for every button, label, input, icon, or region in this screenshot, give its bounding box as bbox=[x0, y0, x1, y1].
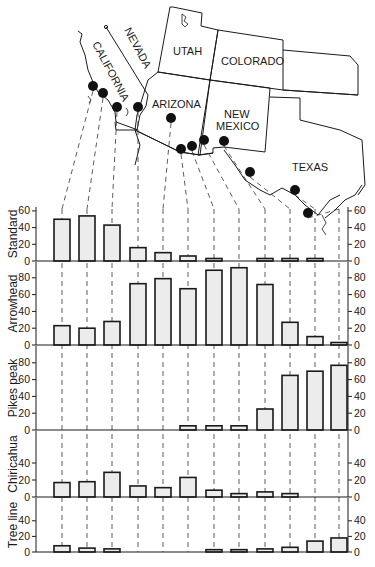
site-dot bbox=[98, 88, 108, 98]
bar bbox=[331, 365, 347, 430]
state-label-new-mexico-2: MEXICO bbox=[216, 120, 260, 132]
y-tick-label-right: 0 bbox=[354, 339, 360, 351]
site-dot bbox=[290, 185, 300, 195]
leader-line bbox=[204, 145, 239, 209]
state-label-arizona: ARIZONA bbox=[152, 98, 202, 110]
leader-line bbox=[62, 91, 93, 209]
bar bbox=[54, 483, 70, 497]
bar bbox=[180, 256, 196, 261]
bar bbox=[130, 248, 146, 261]
y-tick-label-right: 20 bbox=[354, 238, 366, 250]
panel-label: Pikes peak bbox=[6, 358, 20, 418]
y-tick-label-left: 0 bbox=[24, 339, 30, 351]
bar bbox=[282, 322, 298, 345]
leader-line bbox=[224, 146, 265, 209]
y-tick-label-left: 40 bbox=[18, 305, 30, 317]
leader-line bbox=[295, 195, 315, 209]
state-label-nevada: NEVADA bbox=[122, 25, 154, 70]
panel-label: Standard bbox=[6, 210, 20, 259]
figure: UTAH COLORADO ARIZONA NEW MEXICO TEXAS N… bbox=[0, 0, 375, 567]
y-tick-label-right: 20 bbox=[354, 474, 366, 486]
panel-chiricahua: 0020204040Chiricahua bbox=[6, 431, 366, 503]
site-dot bbox=[187, 141, 197, 151]
panel-tree-line: 0020204040Tree line bbox=[6, 498, 366, 558]
bar bbox=[130, 284, 146, 345]
y-tick-label-right: 20 bbox=[354, 322, 366, 334]
y-tick-label-right: 40 bbox=[354, 305, 366, 317]
panel-pikes-peak: 002020404060608080Pikes peak bbox=[6, 346, 366, 436]
bar bbox=[104, 321, 120, 345]
y-tick-label-right: 40 bbox=[354, 514, 366, 526]
y-tick-label-right: 40 bbox=[354, 390, 366, 402]
bar-panels: 00202040406060Standard002020404060608080… bbox=[6, 204, 366, 557]
site-dot bbox=[303, 208, 313, 218]
bar bbox=[231, 268, 247, 345]
y-tick-label-left: 0 bbox=[24, 546, 30, 558]
y-tick-label-right: 0 bbox=[354, 546, 360, 558]
leader-line bbox=[192, 151, 214, 209]
bar bbox=[282, 547, 298, 552]
bar bbox=[180, 289, 196, 345]
panel-label: Tree line bbox=[6, 502, 20, 549]
bar bbox=[79, 328, 95, 345]
y-tick-label-left: 40 bbox=[18, 457, 30, 469]
bar bbox=[307, 541, 323, 552]
y-tick-label-left: 20 bbox=[18, 407, 30, 419]
y-tick-label-right: 40 bbox=[354, 221, 366, 233]
leader-line bbox=[87, 98, 103, 209]
y-tick-label-right: 60 bbox=[354, 288, 366, 300]
y-tick-label-left: 60 bbox=[18, 204, 30, 216]
y-tick-label-left: 0 bbox=[24, 255, 30, 267]
bar bbox=[155, 253, 171, 261]
site-dot bbox=[88, 81, 98, 91]
leader-line bbox=[163, 123, 171, 209]
y-tick-label-right: 40 bbox=[354, 457, 366, 469]
y-tick-label-left: 60 bbox=[18, 288, 30, 300]
y-tick-label-right: 0 bbox=[354, 255, 360, 267]
y-tick-label-left: 20 bbox=[18, 530, 30, 542]
bar bbox=[130, 486, 146, 497]
bar bbox=[155, 488, 171, 497]
bar bbox=[79, 216, 95, 261]
bar bbox=[257, 492, 273, 497]
bar bbox=[331, 538, 347, 552]
bar bbox=[257, 409, 273, 430]
y-tick-label-left: 20 bbox=[18, 238, 30, 250]
panel-label: Chiricahua bbox=[6, 435, 20, 493]
panel-label: Arrowhead bbox=[6, 274, 20, 332]
leader-line bbox=[181, 154, 188, 209]
site-dot bbox=[112, 102, 122, 112]
state-label-texas: TEXAS bbox=[292, 161, 328, 173]
y-tick-label-left: 60 bbox=[18, 373, 30, 385]
bar bbox=[180, 426, 196, 430]
y-tick-label-right: 20 bbox=[354, 530, 366, 542]
bar bbox=[307, 371, 323, 430]
state-labels: UTAH COLORADO ARIZONA NEW MEXICO TEXAS N… bbox=[90, 25, 328, 173]
y-tick-label-right: 20 bbox=[354, 407, 366, 419]
site-dot bbox=[133, 102, 143, 112]
bar bbox=[231, 426, 247, 430]
y-tick-label-right: 80 bbox=[354, 356, 366, 368]
y-tick-label-left: 20 bbox=[18, 474, 30, 486]
bar bbox=[180, 477, 196, 497]
bar bbox=[282, 375, 298, 430]
bar bbox=[155, 279, 171, 345]
state-label-colorado: COLORADO bbox=[221, 55, 284, 67]
y-tick-label-right: 80 bbox=[354, 271, 366, 283]
site-dot bbox=[199, 135, 209, 145]
y-tick-label-right: 60 bbox=[354, 373, 366, 385]
y-tick-label-left: 40 bbox=[18, 221, 30, 233]
site-dot bbox=[166, 113, 176, 123]
site-dot bbox=[245, 167, 255, 177]
y-tick-label-left: 0 bbox=[24, 491, 30, 503]
bar bbox=[104, 472, 120, 497]
state-label-new-mexico-1: NEW bbox=[224, 108, 250, 120]
y-tick-label-right: 60 bbox=[354, 204, 366, 216]
bar bbox=[54, 219, 70, 261]
state-label-utah: UTAH bbox=[173, 45, 202, 57]
panel-arrowhead: 002020404060608080Arrowhead bbox=[6, 262, 366, 351]
site-dot bbox=[176, 144, 186, 154]
bar bbox=[79, 482, 95, 497]
y-tick-label-left: 40 bbox=[18, 390, 30, 402]
y-tick-label-left: 80 bbox=[18, 356, 30, 368]
